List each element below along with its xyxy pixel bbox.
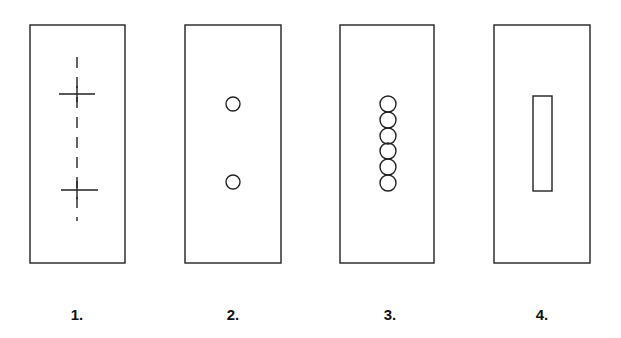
panel-3-circle (380, 175, 396, 191)
panel-3-label: 3. (370, 306, 410, 323)
panel-3-circle (380, 112, 396, 128)
panel-3-circle (380, 96, 396, 112)
panel-4-slot (533, 96, 552, 191)
panel-2-circle-top (226, 97, 240, 111)
panel-3-circle (380, 143, 396, 159)
panel-3 (340, 25, 434, 263)
panel-2-circle-bottom (226, 175, 240, 189)
panel-1 (30, 25, 125, 263)
panel-4 (494, 25, 590, 263)
panel-2-label: 2. (213, 306, 253, 323)
panel-3-circle (380, 128, 396, 144)
panel-3-circle (380, 159, 396, 175)
figure-canvas (0, 0, 621, 338)
panel-4-frame (494, 25, 590, 263)
panel-4-label: 4. (522, 306, 562, 323)
panel-2 (185, 25, 281, 263)
panel-2-frame (185, 25, 281, 263)
panel-1-label: 1. (57, 306, 97, 323)
